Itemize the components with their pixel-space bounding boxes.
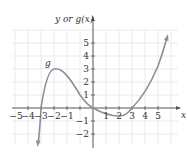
svg-text:1: 1	[83, 90, 89, 100]
curve-g	[38, 37, 167, 143]
svg-text:5: 5	[155, 111, 161, 121]
curve-label: g	[45, 58, 51, 68]
x-axis-label: x	[181, 110, 186, 120]
svg-text:4: 4	[83, 51, 89, 61]
svg-text:−1: −1	[76, 116, 89, 126]
graph: y or g(x) x g −5 −4 −3 −2 −1 1 2 3 4 5 5…	[0, 0, 187, 158]
svg-text:1: 1	[103, 111, 109, 121]
svg-text:2: 2	[116, 111, 122, 121]
y-axis-label: y or g(x)	[54, 14, 94, 24]
svg-text:3: 3	[129, 111, 135, 121]
grid	[12, 30, 178, 145]
svg-text:−4: −4	[21, 111, 35, 121]
svg-text:5: 5	[83, 38, 89, 48]
y-tick-labels: 5 4 3 2 1 −1 −2	[76, 38, 90, 139]
curve-arrow-down-icon	[36, 140, 41, 147]
svg-text:−1: −1	[60, 111, 73, 121]
svg-text:−2: −2	[47, 111, 60, 121]
curve-arrow-up-icon	[164, 34, 169, 41]
svg-text:2: 2	[83, 77, 89, 87]
svg-text:−2: −2	[76, 129, 89, 139]
svg-text:3: 3	[83, 64, 89, 74]
svg-text:−3: −3	[34, 111, 48, 121]
svg-text:4: 4	[142, 111, 148, 121]
